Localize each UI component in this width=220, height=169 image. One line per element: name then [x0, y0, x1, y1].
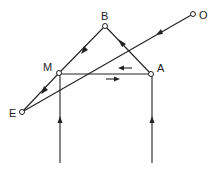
arrow-down-left-icon [156, 29, 163, 35]
arrow-right-icon [114, 77, 120, 82]
node-O [191, 12, 196, 17]
flow-diagram: B O M A E [0, 0, 220, 169]
arrow-up-icon [150, 116, 155, 123]
label-E: E [9, 107, 16, 119]
arrow-up-left-icon [118, 39, 126, 47]
label-A: A [157, 62, 165, 74]
node-A [149, 72, 154, 77]
edge-A-B [105, 26, 151, 74]
label-O: O [199, 9, 208, 21]
node-B [103, 24, 108, 29]
edge-M-E [22, 73, 59, 112]
node-M [57, 71, 62, 76]
edge-B-M [59, 26, 105, 73]
label-B: B [101, 10, 108, 22]
label-M: M [43, 61, 52, 73]
arrow-up-icon [58, 116, 63, 123]
arrow-left-icon [118, 66, 124, 71]
node-E [20, 110, 25, 115]
arrow-down-left-icon [41, 86, 48, 94]
